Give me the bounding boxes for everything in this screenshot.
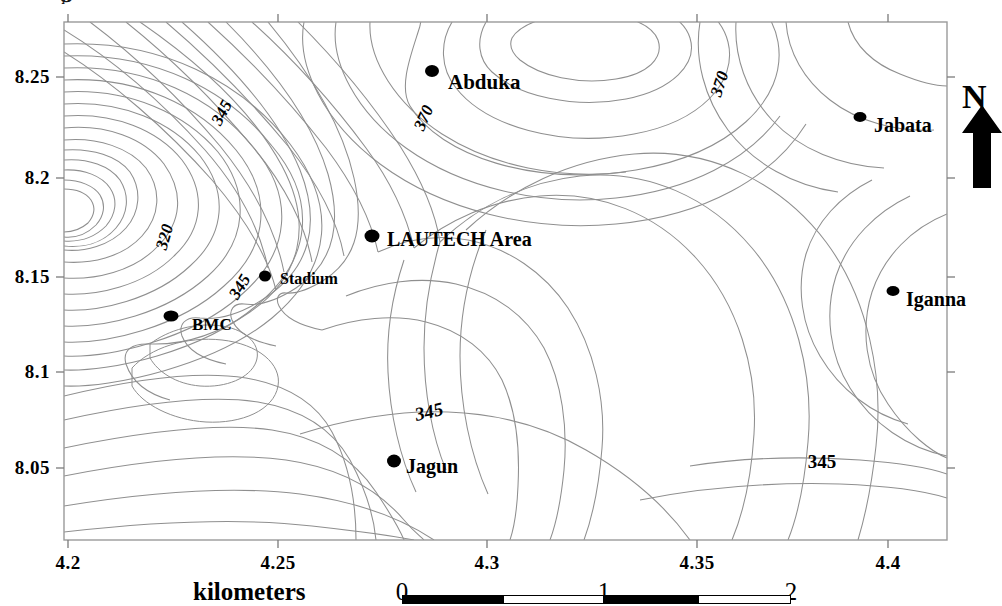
scale-bar-segment xyxy=(604,595,698,604)
y-axis-tick-label: 8.1 xyxy=(0,361,50,383)
site-marker-abduka[interactable] xyxy=(425,65,439,77)
contour-label-345: 345 xyxy=(808,451,837,473)
scale-bar-caption: kilometers xyxy=(193,578,305,606)
y-axis-tick-label: 8.25 xyxy=(0,66,50,88)
site-marker-iganna[interactable] xyxy=(887,286,900,296)
y-axis-tick-label: 8.15 xyxy=(0,266,50,288)
site-marker-jabata[interactable] xyxy=(854,112,867,122)
site-label-lautech-area: LAUTECH Area xyxy=(387,228,532,251)
north-arrow-icon xyxy=(962,105,1002,188)
contour-map-figure: g xyxy=(0,0,1002,606)
site-label-iganna: Iganna xyxy=(906,288,966,311)
site-label-stadium: Stadium xyxy=(280,270,338,288)
site-label-abduka: Abduka xyxy=(448,70,520,95)
y-axis-tick-label: 8.05 xyxy=(0,457,50,479)
site-marker-jagun[interactable] xyxy=(387,455,401,468)
site-marker-bmc[interactable] xyxy=(164,311,179,322)
y-axis-tick-label: 8.2 xyxy=(0,167,50,189)
x-axis-tick-label: 4.25 xyxy=(260,552,295,574)
site-label-jabata: Jabata xyxy=(874,114,932,137)
north-arrow-label: N xyxy=(962,80,987,114)
site-label-jagun: Jagun xyxy=(406,455,458,478)
scale-bar-segment xyxy=(698,595,791,604)
site-marker-stadium[interactable] xyxy=(259,271,271,282)
site-label-bmc: BMC xyxy=(192,315,232,335)
x-axis-tick-label: 4.2 xyxy=(55,552,80,574)
x-axis-tick-label: 4.4 xyxy=(875,552,900,574)
site-marker-lautech-area[interactable] xyxy=(365,230,380,243)
scale-bar-segment xyxy=(503,595,604,604)
x-axis-tick-label: 4.3 xyxy=(474,552,499,574)
x-axis-tick-label: 4.35 xyxy=(679,552,714,574)
scale-bar-segment xyxy=(402,595,503,604)
